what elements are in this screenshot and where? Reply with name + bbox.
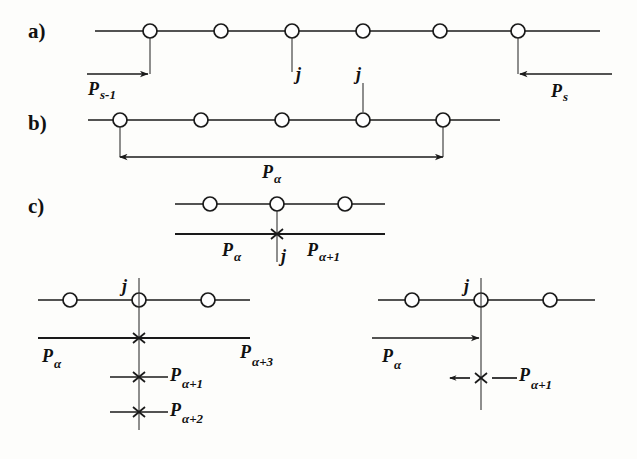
panel-c-bl-alpha2-P: P [169,400,182,420]
panel-b-label: b) [28,111,47,135]
panel-c-br-alpha1-P: P [518,365,531,385]
panel-b-node-2 [194,113,208,127]
panel-c-top-left-P: P [221,240,234,260]
panel-b-node-5 [436,113,450,127]
panel-a-right-measure-P: P [550,81,563,101]
panel-b-node-1 [113,113,127,127]
panel-c-top: P α j P α+1 [175,197,385,266]
panel-a-node-6 [511,24,525,38]
panel-c-top-node-2 [270,197,284,211]
panel-c-br-label-alpha1: P α+1 [518,365,552,392]
panel-a-right-measure-sub: s [562,89,568,104]
panel-a-right-measure-label: P s [550,81,568,104]
panel-c-bl-node-3 [201,293,215,307]
panel-c-br-node-3 [543,293,557,307]
panel-c-top-node-1 [203,197,217,211]
panel-a-left-measure-label: P s-1 [87,79,116,102]
panel-c-br-node-1 [405,293,419,307]
panel-a-left-measure-sub: s-1 [99,87,116,102]
panel-a-node-1 [143,24,157,38]
panel-c: c) P α j [28,194,595,430]
panel-c-bl-label-alpha3: P α+3 [239,342,274,369]
panel-c-bl-label-alpha: P α [41,346,62,371]
panel-c-br-label-alpha: P α [381,346,402,372]
panel-c-bl-alpha2-sub: α+2 [182,411,204,426]
panel-c-bl-alpha3-P: P [239,342,252,362]
panel-c-bl-alpha-sub: α [54,356,62,371]
panel-c-br-alpha1-sub: α+1 [531,377,552,392]
panel-a-node-4 [356,24,370,38]
panel-b-node-3 [275,113,289,127]
panel-c-br-alpha-sub: α [394,357,402,372]
panel-c-label: c) [28,194,44,218]
panel-c-bl-label-alpha1: P α+1 [169,365,203,391]
panel-c-bl-alpha3-sub: α+3 [252,354,274,369]
panel-a-node-5 [433,24,447,38]
panel-c-bl-j-label: j [119,276,128,296]
panel-c-bl-alpha1-P: P [169,365,182,385]
panel-b-j-label: j [353,64,362,84]
panel-c-bl-node-1 [63,293,77,307]
panel-b-span-P: P [261,162,274,182]
panel-b-node-4 [356,113,370,127]
panel-a-node-2 [214,24,228,38]
panel-c-bl-alpha-P: P [41,346,54,366]
panel-c-top-left-sub: α [234,249,242,264]
panel-b-span-sub: α [274,171,282,186]
panel-c-top-node-3 [338,197,352,211]
panel-a-j-label: j [293,64,302,84]
panel-c-top-right-sub: α+1 [319,249,340,264]
figure-canvas: a) j P s-1 [0,0,637,459]
panel-a-node-3 [285,24,299,38]
panel-a-label: a) [28,19,46,43]
panel-c-bl-label-alpha2: P α+2 [169,400,204,426]
panel-c-top-left-measure-label: P α [221,240,242,264]
panel-c-top-right-P: P [306,240,319,260]
panel-a: a) j P s-1 [28,19,612,104]
panel-c-top-right-measure-label: P α+1 [306,240,340,264]
figure-root: a) j P s-1 [0,0,637,459]
panel-c-bottom-left: j P α P α+3 [38,276,274,430]
panel-c-br-j-label: j [461,276,470,296]
panel-a-left-measure-P: P [87,79,100,99]
panel-c-bl-alpha1-sub: α+1 [182,376,203,391]
panel-b-span-label: P α [261,162,282,186]
panel-c-top-j-label: j [278,246,287,266]
panel-c-br-alpha-P: P [381,346,394,366]
panel-c-bottom-right: j P α P α+1 [372,276,595,410]
